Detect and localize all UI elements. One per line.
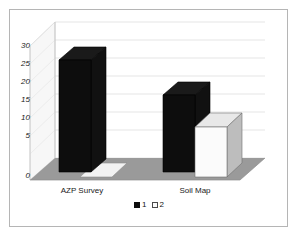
bar-soil-map-series-1-front — [163, 95, 195, 172]
y-tick-label-0: 0 — [12, 172, 30, 180]
legend-label-2: 2 — [160, 201, 164, 209]
y-tick-label-5: 5 — [12, 132, 30, 140]
y-tick-label-20: 20 — [12, 78, 30, 86]
legend-label-1: 1 — [142, 201, 146, 209]
y-tick-label-30: 30 — [12, 42, 30, 50]
bar-soil-map-series-2-front — [195, 127, 227, 177]
black-square-swatch-icon — [134, 202, 140, 208]
legend-item-2[interactable]: 2 — [152, 201, 164, 209]
y-tick-label-10: 10 — [12, 114, 30, 122]
bar-azp-survey-series-1-front — [59, 60, 91, 172]
legend-item-1[interactable]: 1 — [134, 201, 146, 209]
white-square-swatch-icon — [152, 202, 158, 208]
y-tick-label-25: 25 — [12, 60, 30, 68]
left-side-wall — [30, 22, 55, 180]
y-tick-label-15: 15 — [12, 96, 30, 104]
category-label-soil-map: Soil Map — [155, 186, 235, 195]
chart-legend: 1 2 — [0, 201, 298, 209]
category-label-azp-survey: AZP Survey — [42, 186, 122, 195]
bar-azp-survey-series-1-side — [91, 47, 106, 172]
chart-figure: 30 25 20 15 10 5 0 AZP Survey Soil Map 1… — [0, 0, 298, 237]
